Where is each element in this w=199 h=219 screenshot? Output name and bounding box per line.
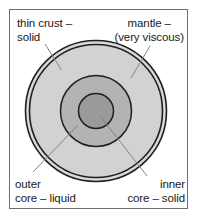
label-mantle-line2: (very viscous) bbox=[114, 31, 184, 45]
label-outer-core-line2: core – liquid bbox=[15, 192, 76, 206]
label-outer-core: outer core – liquid bbox=[15, 178, 76, 205]
label-thin-crust-line1: thin crust – bbox=[17, 17, 72, 31]
label-inner-core-line1: inner bbox=[127, 178, 185, 192]
layer-inner-core bbox=[79, 94, 114, 129]
label-thin-crust: thin crust – solid bbox=[17, 17, 72, 44]
diagram-page: thin crust – solid mantle – (very viscou… bbox=[0, 0, 199, 219]
label-mantle: mantle – (very viscous) bbox=[114, 17, 184, 44]
label-inner-core-line2: core – solid bbox=[127, 192, 185, 206]
label-mantle-line1: mantle – bbox=[114, 17, 184, 31]
label-outer-core-line1: outer bbox=[15, 178, 76, 192]
label-thin-crust-line2: solid bbox=[17, 31, 72, 45]
label-inner-core: inner core – solid bbox=[127, 178, 185, 205]
